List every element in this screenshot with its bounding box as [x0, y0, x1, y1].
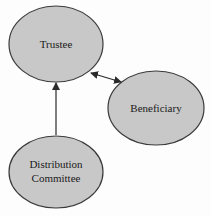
node-distribution-committee: Distribution Committee	[9, 136, 103, 208]
distribution-committee-label-line2: Committee	[32, 172, 81, 184]
edge-trustee-beneficiary-double-arrow	[91, 73, 121, 82]
distribution-committee-label-line1: Distribution	[29, 158, 83, 170]
node-trustee: Trustee	[9, 6, 103, 82]
node-beneficiary: Beneficiary	[108, 71, 204, 145]
diagram-canvas: Trustee Beneficiary Distribution Committ…	[0, 0, 211, 216]
beneficiary-label: Beneficiary	[130, 102, 182, 114]
trustee-label: Trustee	[40, 38, 73, 50]
